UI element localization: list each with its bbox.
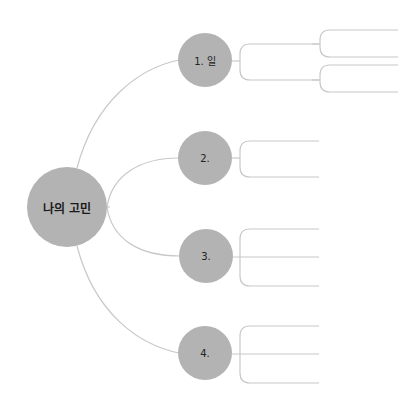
branch-label-1: 1. 일 [194, 53, 216, 68]
connector-root-4 [77, 246, 179, 353]
root-node[interactable]: 나의 고민 [27, 167, 107, 247]
branch-node-2[interactable]: 2. [178, 131, 232, 185]
connector-root-1 [77, 60, 179, 168]
root-label: 나의 고민 [43, 199, 91, 216]
connector-root-3 [107, 207, 180, 256]
branch-node-4[interactable]: 4. [178, 326, 232, 380]
branch-label-4: 4. [200, 348, 210, 359]
branch-label-3: 3. [201, 251, 211, 262]
branch-node-1[interactable]: 1. 일 [178, 33, 232, 87]
connector-root-2 [107, 158, 179, 207]
branch-node-3[interactable]: 3. [179, 229, 233, 283]
branch-label-2: 2. [200, 153, 210, 164]
